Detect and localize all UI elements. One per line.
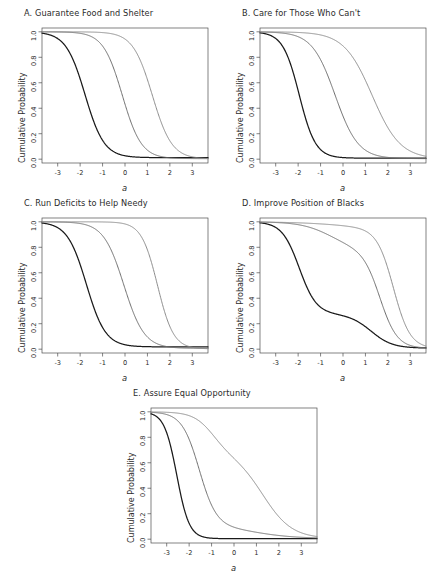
curve-1-panel-d [260,223,426,348]
curve-3-panel-c [42,222,208,349]
chart-panel-b: B. Care for Those Who Can'tCumulative Pr… [226,8,435,198]
curve-3-panel-d [260,222,426,346]
chart-panel-a: A. Guarantee Food and ShelterCumulative … [8,8,218,198]
curve-2-panel-e [151,412,317,538]
plot-frame [151,408,317,543]
chart-panel-d: D. Improve Position of BlacksCumulative … [226,198,435,388]
plot-area-a [8,8,218,198]
chart-panel-c: C. Run Deficits to Help NeedyCumulative … [8,198,218,388]
chart-panel-e: E. Assure Equal OpportunityCumulative Pr… [117,388,327,581]
plot-frame [260,28,426,163]
plot-frame [260,218,426,353]
curve-1-panel-b [260,33,426,158]
plot-area-e [117,388,327,581]
plot-area-c [8,198,218,388]
curve-2-panel-d [260,222,426,348]
curve-2-panel-c [42,222,208,349]
curve-1-panel-a [42,33,208,157]
plot-area-b [226,8,435,198]
plot-area-d [226,198,435,388]
curve-3-panel-a [42,32,208,159]
curve-1-panel-e [151,414,317,539]
curve-3-panel-e [151,412,317,537]
plot-frame [42,218,208,353]
curve-2-panel-a [42,32,208,159]
curve-1-panel-c [42,223,208,347]
figure-panel-grid: A. Guarantee Food and ShelterCumulative … [0,0,435,581]
